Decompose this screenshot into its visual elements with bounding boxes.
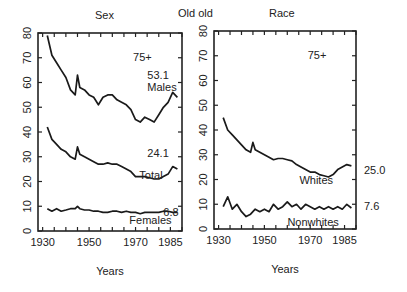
y-tick-label: 20 [197, 173, 209, 185]
series-end-value: 6.8 [163, 206, 178, 218]
x-axis-label: Years [96, 265, 124, 277]
y-tick-label: 20 [21, 175, 33, 187]
plot-frame [214, 31, 356, 229]
series-end-value: 7.6 [364, 200, 379, 212]
x-tick-label: 1930 [30, 236, 54, 248]
x-tick-label: 1970 [123, 236, 147, 248]
y-tick-label: 60 [197, 74, 209, 86]
x-tick-label: 1985 [158, 236, 182, 248]
plot-frame [38, 33, 182, 231]
y-tick-label: 60 [21, 76, 33, 88]
y-tick-label: 40 [21, 126, 33, 138]
series-line-nonwhites [223, 197, 351, 217]
age-annotation: 75+ [308, 49, 327, 61]
series-name-label: Nonwhites [287, 216, 339, 228]
y-tick-label: 30 [21, 151, 33, 163]
series-name-label: Whites [299, 174, 333, 186]
y-tick-label: 30 [197, 149, 209, 161]
y-tick-label: 0 [197, 226, 209, 232]
x-tick-label: 1950 [252, 234, 276, 246]
y-tick-label: 70 [197, 50, 209, 62]
y-tick-label: 0 [21, 228, 33, 234]
series-end-value: 24.1 [147, 147, 168, 159]
y-tick-label: 10 [197, 198, 209, 210]
series-end-value: 25.0 [364, 164, 385, 176]
y-tick-label: 50 [21, 101, 33, 113]
age-annotation: 75+ [133, 51, 152, 63]
y-tick-label: 80 [21, 27, 33, 39]
x-tick-label: 1985 [332, 234, 356, 246]
series-line-females [47, 206, 177, 213]
y-tick-label: 80 [197, 25, 209, 37]
x-tick-label: 1950 [77, 236, 101, 248]
y-tick-label: 40 [197, 124, 209, 136]
series-name-label: Total [139, 169, 162, 181]
chart-area: 010203040506070801930195019701985Years75… [0, 0, 407, 292]
y-tick-label: 50 [197, 99, 209, 111]
series-name-label: Males [147, 81, 177, 93]
x-tick-label: 1970 [298, 234, 322, 246]
y-tick-label: 10 [21, 200, 33, 212]
series-end-value: 53.1 [147, 69, 168, 81]
y-tick-label: 70 [21, 52, 33, 64]
x-axis-label: Years [271, 263, 299, 275]
x-tick-label: 1930 [206, 234, 230, 246]
series-line-whites [223, 118, 351, 177]
